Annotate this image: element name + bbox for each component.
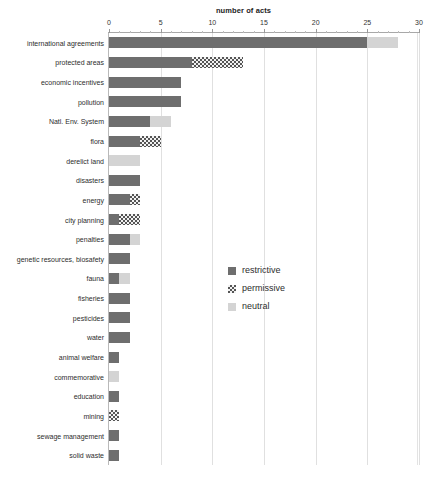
stacked-bar[interactable] (109, 312, 130, 323)
bar-row[interactable]: disasters (109, 175, 417, 186)
stacked-bar[interactable] (109, 352, 119, 363)
bar-row[interactable]: economic incentives (109, 77, 417, 88)
stacked-bar[interactable] (109, 410, 119, 421)
stacked-bar[interactable] (109, 273, 130, 284)
bar-segment-restrictive[interactable] (109, 175, 140, 186)
bar-row[interactable]: derelict land (109, 155, 417, 166)
bar-row[interactable]: city planning (109, 214, 417, 225)
x-tick-minor (192, 31, 193, 34)
x-tick-minor (140, 31, 141, 34)
bar-segment-restrictive[interactable] (109, 37, 367, 48)
bar-row[interactable]: energy (109, 194, 417, 205)
bar-segment-restrictive[interactable] (109, 332, 130, 343)
bar-row[interactable]: pollution (109, 96, 417, 107)
category-label: genetic resources, biosafety (17, 256, 104, 263)
x-tick-minor (347, 31, 348, 34)
stacked-bar[interactable] (109, 391, 119, 402)
x-tick-minor (130, 31, 131, 34)
stacked-bar[interactable] (109, 77, 181, 88)
bar-segment-neutral[interactable] (150, 116, 171, 127)
x-tick-label: 10 (208, 19, 216, 26)
bar-row[interactable]: international agreements (109, 37, 417, 48)
category-label: mining (83, 413, 104, 420)
category-label: derelict land (66, 158, 104, 165)
bar-row[interactable]: sewage management (109, 430, 417, 441)
bar-segment-permissive[interactable] (109, 410, 119, 421)
legend: restrictivepermissiveneutral (228, 266, 285, 320)
x-tick-minor (171, 31, 172, 34)
stacked-bar[interactable] (109, 293, 130, 304)
bar-segment-restrictive[interactable] (109, 57, 192, 68)
bar-row[interactable]: penalties (109, 234, 417, 245)
legend-item-restrictive[interactable]: restrictive (228, 266, 285, 275)
bar-segment-restrictive[interactable] (109, 450, 119, 461)
bar-segment-restrictive[interactable] (109, 253, 130, 264)
x-tick-major (367, 29, 368, 33)
stacked-bar[interactable] (109, 136, 161, 147)
bar-row[interactable]: genetic resources, biosafety (109, 253, 417, 264)
bar-segment-neutral[interactable] (109, 155, 140, 166)
x-tick-major (212, 29, 213, 33)
bar-segment-permissive[interactable] (119, 214, 140, 225)
bar-row[interactable]: water (109, 332, 417, 343)
bar-segment-restrictive[interactable] (109, 214, 119, 225)
bar-segment-permissive[interactable] (192, 57, 244, 68)
bar-segment-restrictive[interactable] (109, 430, 119, 441)
bar-segment-restrictive[interactable] (109, 391, 119, 402)
bar-segment-restrictive[interactable] (109, 194, 130, 205)
bar-segment-neutral[interactable] (130, 234, 140, 245)
stacked-bar[interactable] (109, 155, 140, 166)
bar-segment-restrictive[interactable] (109, 312, 130, 323)
stacked-bar[interactable] (109, 371, 119, 382)
bar-segment-restrictive[interactable] (109, 352, 119, 363)
x-axis-title-text: number of acts (216, 6, 271, 15)
bar-segment-permissive[interactable] (130, 194, 140, 205)
bar-segment-permissive[interactable] (140, 136, 161, 147)
bar-segment-restrictive[interactable] (109, 116, 150, 127)
bar-row[interactable]: solid waste (109, 450, 417, 461)
stacked-bar[interactable] (109, 253, 130, 264)
bar-row[interactable]: protected areas (109, 57, 417, 68)
stacked-bar[interactable] (109, 194, 140, 205)
legend-swatch-permissive (228, 285, 236, 293)
plot-area: 051015202530 international agreementspro… (108, 33, 418, 465)
bar-segment-neutral[interactable] (109, 371, 119, 382)
category-label: protected areas (55, 59, 104, 66)
category-label: animal welfare (59, 354, 104, 361)
category-label: Natl. Env. System (49, 118, 104, 125)
stacked-bar[interactable] (109, 116, 171, 127)
stacked-bar[interactable] (109, 332, 130, 343)
legend-item-permissive[interactable]: permissive (228, 284, 285, 293)
stacked-bar[interactable] (109, 57, 243, 68)
bar-row[interactable]: Natl. Env. System (109, 116, 417, 127)
bar-row[interactable]: commemorative (109, 371, 417, 382)
x-tick-label: 0 (107, 19, 111, 26)
stacked-bar[interactable] (109, 214, 140, 225)
stacked-bar[interactable] (109, 37, 398, 48)
x-tick-minor (243, 31, 244, 34)
bar-segment-restrictive[interactable] (109, 273, 119, 284)
bar-segment-restrictive[interactable] (109, 293, 130, 304)
stacked-bar[interactable] (109, 450, 119, 461)
bar-segment-neutral[interactable] (119, 273, 129, 284)
bar-row[interactable]: flora (109, 136, 417, 147)
bar-segment-restrictive[interactable] (109, 234, 130, 245)
x-tick-label: 30 (415, 19, 423, 26)
bar-row[interactable]: animal welfare (109, 352, 417, 363)
bar-segment-restrictive[interactable] (109, 96, 181, 107)
bar-segment-restrictive[interactable] (109, 77, 181, 88)
category-label: sewage management (37, 433, 104, 440)
stacked-bar[interactable] (109, 96, 181, 107)
category-label: international agreements (27, 40, 104, 47)
stacked-bar[interactable] (109, 234, 140, 245)
legend-swatch-neutral (228, 303, 236, 311)
category-label: pollution (78, 99, 104, 106)
stacked-bar[interactable] (109, 175, 140, 186)
stacked-bar[interactable] (109, 430, 119, 441)
bar-row[interactable]: mining (109, 410, 417, 421)
bar-row[interactable]: education (109, 391, 417, 402)
bar-segment-restrictive[interactable] (109, 136, 140, 147)
legend-item-neutral[interactable]: neutral (228, 302, 285, 311)
legend-label: permissive (242, 284, 285, 293)
bar-segment-neutral[interactable] (367, 37, 398, 48)
